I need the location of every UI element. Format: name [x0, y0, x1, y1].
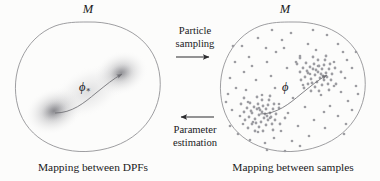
left-manifold-symbol: M [83, 3, 94, 16]
parameter-estimation-label: Parameter estimation [173, 124, 217, 149]
left-panel-caption: Mapping between DPFs [38, 162, 148, 174]
right-map-symbol: ϕ [282, 81, 288, 94]
parameter-estimation-line-1: Parameter [173, 124, 217, 137]
particle-sampling-label: Particle sampling [176, 25, 215, 50]
particle-sampling-line-1: Particle [176, 25, 215, 38]
sample-cluster-b [296, 55, 343, 93]
parameter-estimation-line-2: estimation [173, 137, 217, 150]
right-manifold-outline [220, 22, 365, 152]
figure-canvas: M M ϕ∗ ϕ Particle sampling Parameter est… [0, 0, 380, 181]
right-manifold-symbol: M [280, 3, 291, 16]
left-map-symbol: ϕ∗ [79, 81, 91, 94]
left-map-subscript: ∗ [85, 85, 90, 94]
particle-sampling-line-2: sampling [176, 38, 215, 51]
right-panel-caption: Mapping between samples [232, 162, 353, 174]
right-sample-scatter [225, 29, 360, 153]
background-samples [225, 29, 360, 153]
